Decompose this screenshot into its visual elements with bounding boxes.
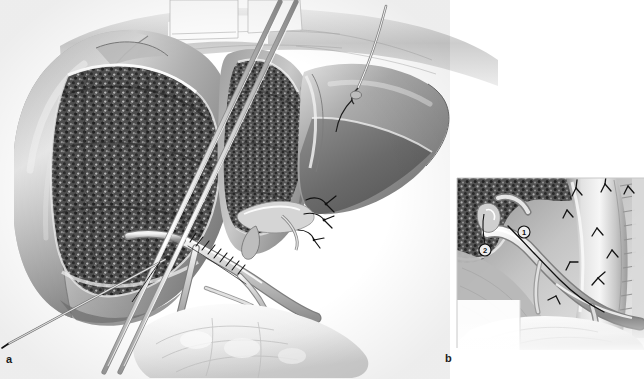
panel-label-a: a: [6, 354, 12, 365]
callout-1: 1: [518, 226, 530, 238]
callout-1-label: 1: [522, 228, 526, 237]
inset-content: [457, 176, 644, 350]
callout-2-label: 2: [483, 246, 487, 255]
panel-label-b: b: [445, 353, 452, 364]
surgical-illustration-figure: 1 2 a b: [0, 0, 644, 379]
panel-b-inset: 1 2: [0, 0, 644, 379]
